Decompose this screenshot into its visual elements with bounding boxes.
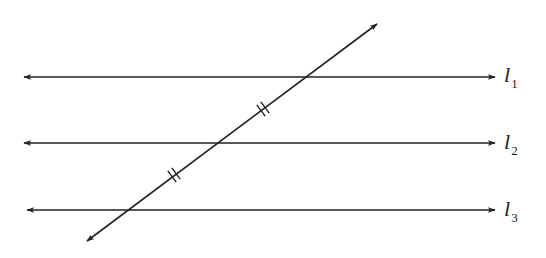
label-l1-subscript: 1 bbox=[511, 76, 518, 91]
label-l1-main: l bbox=[504, 62, 510, 87]
label-l3: l3 bbox=[504, 198, 517, 220]
label-l1: l1 bbox=[504, 64, 517, 86]
label-l2-subscript: 2 bbox=[511, 143, 518, 158]
label-l3-main: l bbox=[504, 196, 510, 221]
label-l2-main: l bbox=[504, 129, 510, 154]
label-l3-subscript: 3 bbox=[511, 210, 518, 225]
transversal-line bbox=[87, 24, 377, 241]
parallel-lines-diagram bbox=[0, 0, 546, 258]
label-l2: l2 bbox=[504, 131, 517, 153]
